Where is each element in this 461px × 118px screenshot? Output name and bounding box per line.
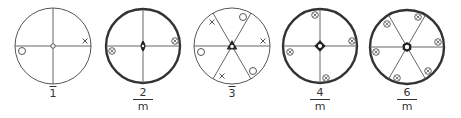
circled-cross-icon (172, 38, 179, 45)
label-4m-num: 4 (310, 87, 330, 100)
circled-cross-icon (312, 12, 319, 19)
label-4-over-m: 4 m (310, 87, 330, 112)
label-6-over-m: 6 m (397, 87, 417, 112)
circled-cross-icon (109, 48, 116, 55)
point-group-diagrams (0, 0, 461, 118)
cross-icon (83, 39, 88, 44)
label-6m-den: m (397, 100, 417, 112)
circled-cross-icon (394, 75, 401, 82)
stereogram-3bar (194, 8, 270, 84)
circled-cross-icon (373, 49, 380, 56)
circled-cross-icon (349, 38, 356, 45)
open-circle-icon (240, 14, 247, 21)
inversion-center-icon (230, 45, 234, 49)
stereogram-4-over-m (283, 9, 357, 83)
circled-cross-icon (425, 68, 432, 75)
circled-cross-icon (415, 14, 422, 21)
stereogram-2-over-m (106, 9, 180, 83)
inversion-center-icon (405, 45, 409, 49)
circled-cross-icon (323, 75, 330, 82)
label-2m-den: m (133, 100, 153, 112)
stereogram-6-over-m (370, 10, 444, 84)
circled-cross-icon (435, 39, 442, 46)
cross-icon (210, 20, 215, 25)
label-3bar-text: 3 (222, 88, 242, 99)
circled-cross-icon (287, 49, 294, 56)
inversion-center-icon (142, 45, 144, 47)
label-2-over-m: 2 m (133, 87, 153, 112)
label-1bar: 1 (43, 88, 63, 99)
inversion-center-icon (318, 44, 322, 48)
circled-cross-icon (384, 21, 391, 28)
open-circle-icon (250, 68, 257, 75)
inversion-center-icon (51, 44, 55, 48)
open-circle-icon (198, 49, 205, 56)
label-4m-den: m (310, 100, 330, 112)
label-3bar: 3 (222, 88, 242, 99)
cross-icon (261, 39, 266, 44)
label-6m-num: 6 (397, 87, 417, 100)
cross-icon (220, 74, 225, 79)
label-2m-num: 2 (133, 87, 153, 100)
open-circle-icon (19, 48, 26, 55)
stereogram-1bar (15, 8, 91, 84)
label-1bar-text: 1 (43, 88, 63, 99)
